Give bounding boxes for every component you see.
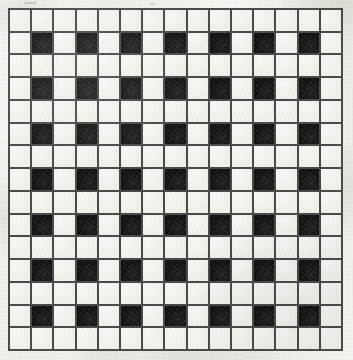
grid-cell (254, 169, 276, 192)
grid-cell (77, 237, 99, 260)
grid-cell (232, 169, 254, 192)
top-left-pencil-smudge (24, 2, 37, 5)
grid-cell (32, 306, 54, 329)
grid-cell (10, 260, 32, 283)
grid-cell (143, 78, 165, 101)
grid-cell (99, 283, 121, 306)
grid-cell (32, 101, 54, 124)
grid-cell (321, 55, 343, 78)
checkerboard-grid-figure (8, 8, 343, 351)
grid-cell (188, 169, 210, 192)
grid-cell (188, 283, 210, 306)
grid-cell (10, 192, 32, 215)
page-canvas (0, 0, 353, 360)
grid-cell (32, 260, 54, 283)
grid-cell (210, 78, 232, 101)
grid-cell (232, 283, 254, 306)
grid-cell (99, 306, 121, 329)
grid-cell (99, 192, 121, 215)
grid-cell (210, 124, 232, 147)
grid-cell (165, 215, 187, 238)
grid-cell (99, 101, 121, 124)
grid-cell (254, 260, 276, 283)
grid-cell (143, 124, 165, 147)
grid-cell (121, 124, 143, 147)
grid-cell (54, 237, 76, 260)
grid-cell (54, 169, 76, 192)
grid-cell (210, 283, 232, 306)
grid-cell (210, 306, 232, 329)
grid-cell (254, 306, 276, 329)
grid-cell (143, 146, 165, 169)
grid-cell (165, 146, 187, 169)
grid-cell (188, 146, 210, 169)
grid-cell (276, 215, 298, 238)
grid-cell (210, 55, 232, 78)
grid-cell (276, 10, 298, 33)
grid-cell (32, 169, 54, 192)
grid-cell (10, 169, 32, 192)
grid-cell (77, 328, 99, 351)
grid-cell (232, 33, 254, 56)
grid-cell (232, 10, 254, 33)
grid-cell (54, 192, 76, 215)
grid-cell (10, 101, 32, 124)
grid-cell (276, 306, 298, 329)
grid-cell (210, 101, 232, 124)
grid-cell (54, 33, 76, 56)
grid-cell (254, 283, 276, 306)
grid-cell (121, 192, 143, 215)
grid-cell (32, 146, 54, 169)
grid-cell (165, 306, 187, 329)
grid-cell (10, 78, 32, 101)
grid-cell (188, 33, 210, 56)
grid-cell (210, 33, 232, 56)
grid-cell (54, 124, 76, 147)
grid-cell (210, 215, 232, 238)
grid-cell (121, 55, 143, 78)
grid-cell (77, 306, 99, 329)
grid-cell (99, 169, 121, 192)
grid-cell (188, 10, 210, 33)
grid-cell (121, 328, 143, 351)
grid-cell (54, 328, 76, 351)
grid-cell (276, 146, 298, 169)
grid-cell (10, 215, 32, 238)
grid-cell (121, 215, 143, 238)
grid-cell (143, 328, 165, 351)
grid-cell (299, 146, 321, 169)
grid-cell (254, 78, 276, 101)
grid-cell (121, 78, 143, 101)
grid-cell (321, 283, 343, 306)
grid-cell (10, 55, 32, 78)
grid-cell (54, 78, 76, 101)
grid-cell (299, 33, 321, 56)
grid-cell (32, 78, 54, 101)
grid-cell (299, 215, 321, 238)
grid-cell (299, 10, 321, 33)
grid-cell (121, 33, 143, 56)
grid-cell (32, 10, 54, 33)
grid-cell (121, 283, 143, 306)
grid-cell (165, 237, 187, 260)
grid-cell (232, 146, 254, 169)
grid-cell (165, 78, 187, 101)
grid-cell (77, 33, 99, 56)
grid-cell (232, 78, 254, 101)
grid-cell (99, 124, 121, 147)
grid-cell (232, 124, 254, 147)
grid-cell (276, 237, 298, 260)
grid-cell (188, 78, 210, 101)
grid-cell (276, 283, 298, 306)
grid-cell (121, 260, 143, 283)
grid-cell (276, 192, 298, 215)
grid-cell (254, 33, 276, 56)
grid-cell (99, 237, 121, 260)
grid-cell (188, 260, 210, 283)
grid-cell (121, 10, 143, 33)
grid-cell (143, 33, 165, 56)
grid-cell (254, 237, 276, 260)
grid-cell (32, 215, 54, 238)
top-center-pencil-dot (150, 3, 155, 6)
grid-cell (99, 260, 121, 283)
